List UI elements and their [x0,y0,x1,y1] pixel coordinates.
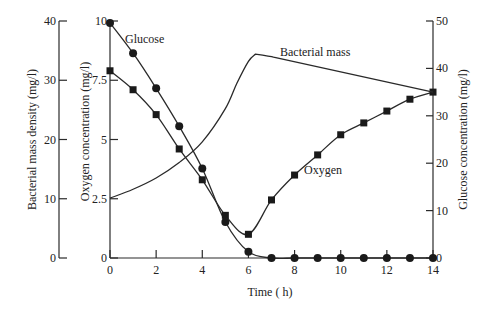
glucose-label: Glucose [125,32,164,46]
oxygen-point [176,145,183,152]
glucose-point [429,254,437,262]
oxygen-point [314,151,321,158]
x-tick-label: 8 [292,263,298,277]
bacterial-tick-label: 20 [44,133,56,147]
bacterial-mass-line [110,54,433,198]
glucose-point [244,248,252,256]
oxygen-point [406,96,413,103]
glucose-point [268,254,276,262]
glucose-point [383,254,391,262]
x-axis-label: Time ( h) [248,285,293,299]
bacterial-tick-label: 0 [50,251,56,265]
oxygen-point [107,67,114,74]
x-tick-label: 2 [153,263,159,277]
glucose-tick-label: 20 [436,156,448,170]
bacterial-axis-label: Bacterial mass density (mg/l) [25,69,39,210]
glucose-tick-label: 50 [436,14,448,28]
bacterial-tick-label: 10 [44,192,56,206]
x-tick-label: 6 [245,263,251,277]
oxygen-point [360,119,367,126]
bacterial-mass-label: Bacterial mass [280,45,351,59]
x-tick-label: 12 [381,263,393,277]
glucose-point [152,84,160,92]
glucose-line [110,23,433,259]
oxygen-point [153,111,160,118]
oxygen-tick-label: 7.5 [92,73,107,87]
bacterial-tick-label: 30 [44,73,56,87]
glucose-point [175,122,183,130]
oxygen-tick-label: 10 [95,14,107,28]
oxygen-tick-label: 2.5 [92,192,107,206]
x-tick-label: 4 [199,263,205,277]
oxygen-point [222,212,229,219]
oxygen-point [383,108,390,115]
series [106,19,437,262]
glucose-point [291,254,299,262]
oxygen-point [245,231,252,238]
x-tick-label: 14 [427,263,439,277]
glucose-point [337,254,345,262]
oxygen-point [337,131,344,138]
oxygen-point [291,172,298,179]
glucose-point [406,254,414,262]
oxygen-tick-label: 5 [101,133,107,147]
chart: 010203040Bacterial mass density (mg/l)02… [0,0,489,317]
oxygen-axis-label: Oxygen concentration (mg/l) [78,62,92,201]
glucose-point [106,19,114,27]
glucose-tick-label: 30 [436,109,448,123]
oxygen-point [268,196,275,203]
oxygen-point [130,86,137,93]
axes: 010203040Bacterial mass density (mg/l)02… [25,14,470,299]
bacterial-tick-label: 40 [44,14,56,28]
glucose-axis-label: Glucose concentration (mg/l) [456,69,470,210]
glucose-point [360,254,368,262]
oxygen-line [110,71,433,235]
glucose-point [198,164,206,172]
oxygen-label: Oxygen [304,163,342,177]
x-tick-label: 0 [107,263,113,277]
x-tick-label: 10 [335,263,347,277]
glucose-point [314,254,322,262]
glucose-point [129,49,137,57]
oxygen-point [199,176,206,183]
glucose-tick-label: 10 [436,204,448,218]
glucose-tick-label: 40 [436,61,448,75]
